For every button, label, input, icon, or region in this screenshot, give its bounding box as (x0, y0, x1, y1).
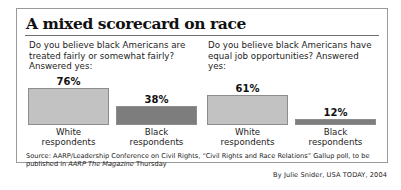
source-publication: AARP The Magazine (68, 160, 134, 168)
bar-group-white: 61% (207, 73, 288, 125)
bar-black-respondents (295, 119, 376, 125)
bar-value-label: 12% (295, 107, 376, 118)
bar-label-line2: respondents (207, 137, 288, 147)
bar-label-black: Black respondents (116, 127, 197, 147)
bar-label-line1: Black (295, 127, 376, 137)
panel-question: Do you believe black Americans are treat… (29, 40, 199, 73)
bar-label-black: Black respondents (295, 127, 376, 147)
bar-label-white: White respondents (207, 127, 288, 147)
bar-black-respondents (116, 106, 197, 125)
infographic-card: A mixed scorecard on race Do you believe… (16, 8, 388, 163)
bar-value-label: 76% (28, 76, 109, 87)
panel-question: Do you believe black Americans have equa… (208, 40, 378, 73)
page-title: A mixed scorecard on race (26, 15, 387, 32)
bar-label-line1: White (28, 127, 109, 137)
bar-group-white: 76% (28, 73, 109, 125)
bar-label-white: White respondents (28, 127, 109, 147)
panel-equal-job-opportunities: Do you believe black Americans have equa… (202, 40, 381, 147)
bar-label-line2: respondents (116, 137, 197, 147)
bar-white-respondents (28, 88, 109, 125)
bar-group-black: 38% (116, 73, 197, 125)
bar-labels-row: White respondents Black respondents (26, 125, 199, 147)
bar-value-label: 38% (116, 94, 197, 105)
title-divider (25, 35, 379, 36)
bar-chart: 76% 38% (26, 73, 199, 125)
bar-white-respondents (207, 95, 288, 125)
bar-group-black: 12% (295, 73, 376, 125)
panels-container: Do you believe black Americans are treat… (17, 40, 387, 147)
source-note: Source: AARP/Leadership Conference on Ci… (26, 152, 378, 168)
panel-treated-fairly: Do you believe black Americans are treat… (23, 40, 202, 147)
bar-chart: 61% 12% (205, 73, 378, 125)
byline: By Julie Snider, USA TODAY, 2004 (273, 171, 387, 179)
bar-labels-row: White respondents Black respondents (205, 125, 378, 147)
bar-label-line2: respondents (295, 137, 376, 147)
bar-label-line1: Black (116, 127, 197, 137)
bar-value-label: 61% (207, 83, 288, 94)
source-text-part2: Thursday (134, 160, 167, 168)
bar-label-line1: White (207, 127, 288, 137)
bar-label-line2: respondents (28, 137, 109, 147)
